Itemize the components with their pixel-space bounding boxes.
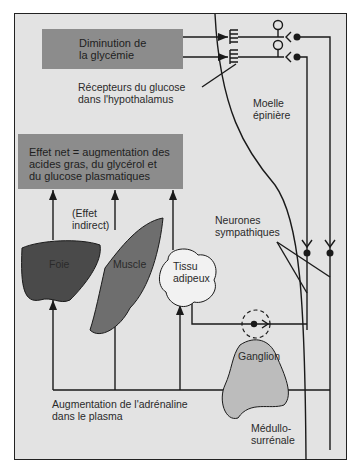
liver-shape (22, 241, 101, 302)
ganglion-label: Ganglion (238, 350, 280, 362)
adrenal-medulla-label: Médullo- surrénale (251, 422, 295, 446)
receptors-label: Récepteurs du glucose dans l'hypothalamu… (78, 81, 185, 105)
indirect-effect-label: (Effet indirect) (72, 207, 109, 231)
muscle-label: Muscle (113, 258, 146, 270)
sympathetic-neurons-label: Neurones sympathiques (215, 214, 280, 238)
spinal-cord-label: Moelle épinière (253, 97, 290, 121)
adrenaline-label: Augmentation de l'adrénaline dans le pla… (52, 398, 188, 422)
muscle-shape (90, 218, 163, 334)
liver-label: Foie (49, 258, 69, 270)
adipose-label: Tissu adipeux (173, 260, 210, 284)
